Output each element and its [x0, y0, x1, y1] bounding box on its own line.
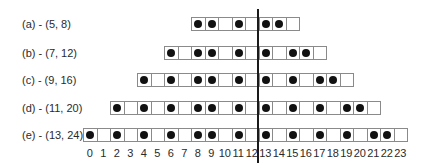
- axis-tick-label: 0: [83, 147, 97, 159]
- cell-row-c: [137, 73, 354, 87]
- axis-tick-label: 6: [164, 147, 178, 159]
- axis-tick-label: 1: [97, 147, 111, 159]
- cell-11: [232, 73, 247, 87]
- mark-dot-icon: [235, 49, 243, 57]
- cell-11: [232, 101, 247, 115]
- mark-dot-icon: [208, 131, 216, 139]
- mark-dot-icon: [194, 131, 202, 139]
- cell-19: [340, 101, 355, 115]
- mark-dot-icon: [316, 131, 324, 139]
- mark-dot-icon: [356, 104, 364, 112]
- center-divider-line: [257, 9, 259, 163]
- cell-10: [218, 73, 233, 87]
- cell-16: [299, 101, 314, 115]
- cell-10: [218, 101, 233, 115]
- mark-dot-icon: [289, 131, 297, 139]
- cell-21: [367, 128, 382, 142]
- cell-15: [286, 17, 301, 31]
- mark-dot-icon: [194, 104, 202, 112]
- cell-9: [205, 17, 220, 31]
- cell-15: [286, 128, 301, 142]
- cell-10: [218, 17, 233, 31]
- axis-tick-label: 21: [367, 147, 381, 159]
- mark-dot-icon: [208, 104, 216, 112]
- axis-tick-label: 9: [205, 147, 219, 159]
- mark-dot-icon: [275, 20, 283, 28]
- mark-dot-icon: [235, 104, 243, 112]
- mark-dot-icon: [235, 131, 243, 139]
- mark-dot-icon: [262, 49, 270, 57]
- axis-tick-label: 22: [380, 147, 394, 159]
- cell-7: [178, 128, 193, 142]
- row-label-c: (c) - (9, 16): [22, 73, 76, 87]
- cell-5: [151, 73, 166, 87]
- cell-17: [313, 101, 328, 115]
- cell-2: [110, 101, 125, 115]
- axis-tick-label: 2: [110, 147, 124, 159]
- axis-tick-label: 8: [191, 147, 205, 159]
- mark-dot-icon: [86, 131, 94, 139]
- mark-dot-icon: [167, 76, 175, 84]
- cell-9: [205, 73, 220, 87]
- row-label-d: (d) - (11, 20): [22, 101, 82, 115]
- cell-6: [164, 128, 179, 142]
- cell-7: [178, 73, 193, 87]
- cell-6: [164, 101, 179, 115]
- mark-dot-icon: [140, 76, 148, 84]
- cell-3: [124, 128, 139, 142]
- mark-dot-icon: [370, 131, 378, 139]
- cell-4: [137, 101, 152, 115]
- cell-5: [151, 128, 166, 142]
- cell-18: [326, 101, 341, 115]
- mark-dot-icon: [113, 104, 121, 112]
- axis-tick-label: 15: [286, 147, 300, 159]
- mark-dot-icon: [289, 49, 297, 57]
- cell-10: [218, 128, 233, 142]
- mark-dot-icon: [343, 131, 351, 139]
- mark-dot-icon: [316, 76, 324, 84]
- mark-dot-icon: [262, 104, 270, 112]
- axis-tick-label: 16: [299, 147, 313, 159]
- axis-tick-label: 7: [178, 147, 192, 159]
- cell-19: [340, 73, 355, 87]
- cell-6: [164, 73, 179, 87]
- cell-15: [286, 101, 301, 115]
- mark-dot-icon: [235, 20, 243, 28]
- cell-4: [137, 128, 152, 142]
- cell-14: [272, 73, 287, 87]
- cell-16: [299, 46, 314, 60]
- cell-15: [286, 73, 301, 87]
- axis-tick-label: 5: [151, 147, 165, 159]
- axis-tick-label: 4: [137, 147, 151, 159]
- cell-13: [259, 73, 274, 87]
- cell-14: [272, 128, 287, 142]
- cell-row-d: [110, 101, 381, 115]
- axis-tick-label: 17: [313, 147, 327, 159]
- mark-dot-icon: [289, 104, 297, 112]
- cell-19: [340, 128, 355, 142]
- cell-row-b: [164, 46, 327, 60]
- mark-dot-icon: [194, 20, 202, 28]
- cell-15: [286, 46, 301, 60]
- mark-dot-icon: [194, 49, 202, 57]
- cell-7: [178, 46, 193, 60]
- cell-20: [353, 101, 368, 115]
- axis-tick-label: 3: [124, 147, 138, 159]
- mark-dot-icon: [167, 49, 175, 57]
- cell-8: [191, 46, 206, 60]
- cell-8: [191, 73, 206, 87]
- mark-dot-icon: [302, 49, 310, 57]
- axis-tick-label: 19: [340, 147, 354, 159]
- cell-7: [178, 101, 193, 115]
- cell-row-e: [83, 128, 408, 142]
- cell-5: [151, 101, 166, 115]
- cell-13: [259, 46, 274, 60]
- cell-13: [259, 17, 274, 31]
- cell-14: [272, 101, 287, 115]
- axis-tick-label: 20: [353, 147, 367, 159]
- mark-dot-icon: [208, 76, 216, 84]
- cell-8: [191, 101, 206, 115]
- cell-9: [205, 128, 220, 142]
- mark-dot-icon: [262, 131, 270, 139]
- cell-9: [205, 46, 220, 60]
